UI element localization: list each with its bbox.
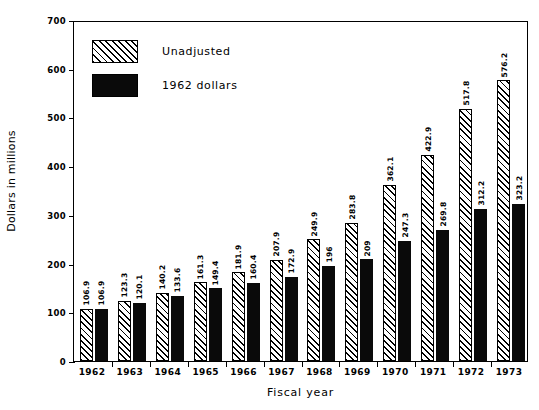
x-axis-tick-mark: [415, 362, 416, 367]
x-axis-tick-label: 1965: [186, 368, 226, 377]
bar-value-label: 323.2: [515, 176, 523, 201]
bar-unadjusted[interactable]: 106.9: [80, 309, 93, 361]
x-axis-tick-mark: [150, 362, 151, 367]
x-axis-tick-mark: [339, 362, 340, 367]
bar-1962-dollars[interactable]: 160.4: [247, 283, 260, 361]
bar-value-label: 422.9: [425, 127, 433, 152]
bar-unadjusted[interactable]: 422.9: [421, 155, 434, 361]
bars-container: 106.9106.9123.3120.1140.2133.6161.3149.4…: [74, 20, 529, 361]
bar-value-label: 517.8: [463, 81, 471, 106]
y-axis-tick-mark: [69, 362, 75, 363]
bar-1962-dollars[interactable]: 323.2: [512, 204, 525, 361]
x-axis-tick-label: 1971: [413, 368, 453, 377]
bar-group: 576.2323.2: [495, 20, 527, 361]
bar-chart: Dollars in millions 01002003004005006007…: [0, 0, 539, 410]
x-axis-tick-label: 1967: [262, 368, 302, 377]
bar-value-label: 362.1: [387, 157, 395, 182]
plot-area: Unadjusted 1962 dollars 106.9106.9123.31…: [73, 21, 528, 362]
bar-value-label: 106.9: [98, 281, 106, 306]
bar-group: 517.8312.2: [457, 20, 489, 361]
bar-group: 106.9106.9: [78, 20, 110, 361]
bar-value-label: 312.2: [478, 181, 486, 206]
bar-1962-dollars[interactable]: 269.8: [436, 230, 449, 361]
bar-value-label: 249.9: [311, 211, 319, 236]
bar-group: 422.9269.8: [419, 20, 451, 361]
x-axis-tick-marks: [74, 356, 529, 362]
x-axis-tick-label: 1962: [72, 368, 112, 377]
bar-1962-dollars[interactable]: 312.2: [474, 209, 487, 361]
x-axis-tick-label: 1968: [299, 368, 339, 377]
x-axis-tick-label: 1963: [110, 368, 150, 377]
x-axis-tick-mark: [226, 362, 227, 367]
x-axis-tick-mark: [188, 362, 189, 367]
bar-unadjusted[interactable]: 249.9: [307, 239, 320, 361]
bar-value-label: 207.9: [273, 232, 281, 257]
bar-1962-dollars[interactable]: 172.9: [285, 277, 298, 361]
bar-value-label: 160.4: [250, 255, 258, 280]
bar-group: 283.8209: [343, 20, 375, 361]
bar-unadjusted[interactable]: 362.1: [383, 185, 396, 361]
bar-unadjusted[interactable]: 283.8: [345, 223, 358, 361]
x-axis-tick-mark: [112, 362, 113, 367]
bar-1962-dollars[interactable]: 196: [322, 266, 335, 361]
bar-value-label: 133.6: [174, 268, 182, 293]
x-axis-tick-mark: [302, 362, 303, 367]
bar-1962-dollars[interactable]: 247.3: [398, 241, 411, 361]
bar-value-label: 181.9: [235, 244, 243, 269]
bar-group: 123.3120.1: [116, 20, 148, 361]
bar-group: 249.9196: [305, 20, 337, 361]
bar-unadjusted[interactable]: 181.9: [232, 272, 245, 361]
bar-unadjusted[interactable]: 517.8: [459, 109, 472, 361]
bar-unadjusted[interactable]: 140.2: [156, 293, 169, 361]
bar-value-label: 120.1: [136, 274, 144, 299]
bar-group: 161.3149.4: [192, 20, 224, 361]
bar-group: 207.9172.9: [268, 20, 300, 361]
bar-value-label: 140.2: [159, 265, 167, 290]
bar-unadjusted[interactable]: 123.3: [118, 301, 131, 361]
bar-1962-dollars[interactable]: 209: [360, 259, 373, 361]
bar-value-label: 247.3: [402, 213, 410, 238]
bar-value-label: 106.9: [83, 281, 91, 306]
bar-unadjusted[interactable]: 576.2: [497, 80, 510, 361]
bar-group: 140.2133.6: [154, 20, 186, 361]
bar-value-label: 149.4: [212, 260, 220, 285]
x-axis-tick-mark: [491, 362, 492, 367]
x-axis-tick-label: 1969: [337, 368, 377, 377]
bar-unadjusted[interactable]: 161.3: [194, 282, 207, 361]
bar-1962-dollars[interactable]: 149.4: [209, 288, 222, 361]
x-axis-tick-label: 1973: [489, 368, 529, 377]
bar-group: 181.9160.4: [230, 20, 262, 361]
bar-1962-dollars[interactable]: 106.9: [95, 309, 108, 361]
x-axis-tick-mark: [377, 362, 378, 367]
bar-value-label: 123.3: [121, 273, 129, 298]
x-axis-tick-labels: 1962196319641965196619671968196919701971…: [73, 368, 528, 382]
x-axis-tick-mark: [264, 362, 265, 367]
bar-group: 362.1247.3: [381, 20, 413, 361]
bar-1962-dollars[interactable]: 120.1: [133, 303, 146, 362]
bar-value-label: 269.8: [440, 202, 448, 227]
x-axis-tick-label: 1970: [375, 368, 415, 377]
x-axis-tick-label: 1966: [224, 368, 264, 377]
bar-value-label: 283.8: [349, 195, 357, 220]
x-axis-tick-label: 1972: [451, 368, 491, 377]
x-axis-tick-label: 1964: [148, 368, 188, 377]
bar-value-label: 196: [326, 246, 334, 262]
bar-value-label: 172.9: [288, 249, 296, 274]
x-axis-title: Fiscal year: [73, 386, 528, 399]
bar-1962-dollars[interactable]: 133.6: [171, 296, 184, 361]
bar-unadjusted[interactable]: 207.9: [270, 260, 283, 361]
bar-value-label: 576.2: [500, 52, 508, 77]
x-axis-tick-mark: [453, 362, 454, 367]
bar-value-label: 209: [364, 240, 372, 256]
bar-value-label: 161.3: [197, 254, 205, 279]
